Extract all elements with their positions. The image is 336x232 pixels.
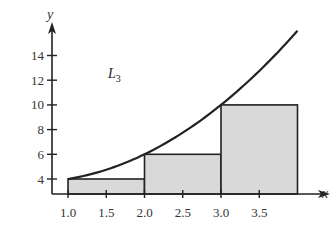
x-axis-label: x — [321, 186, 329, 201]
svg-text:1.5: 1.5 — [98, 205, 114, 220]
l3-annotation: L3 — [107, 66, 121, 84]
svg-text:1.0: 1.0 — [60, 205, 76, 220]
rectangle-3 — [221, 105, 298, 194]
svg-text:3.5: 3.5 — [251, 205, 267, 220]
svg-text:2.5: 2.5 — [175, 205, 191, 220]
svg-text:14: 14 — [31, 48, 45, 63]
y-axis-label: y — [45, 7, 54, 22]
svg-text:2.0: 2.0 — [136, 205, 152, 220]
rectangles — [68, 105, 298, 194]
svg-text:3.0: 3.0 — [213, 205, 229, 220]
svg-text:12: 12 — [31, 73, 44, 88]
svg-text:10: 10 — [31, 97, 44, 112]
riemann-sum-chart: 1.01.52.02.53.03.5 468101214 x y L3 — [0, 0, 336, 232]
rectangle-2 — [145, 154, 222, 194]
svg-text:4: 4 — [38, 172, 45, 187]
svg-text:6: 6 — [38, 147, 45, 162]
svg-text:8: 8 — [38, 122, 45, 137]
y-axis-ticks: 468101214 — [31, 48, 57, 187]
